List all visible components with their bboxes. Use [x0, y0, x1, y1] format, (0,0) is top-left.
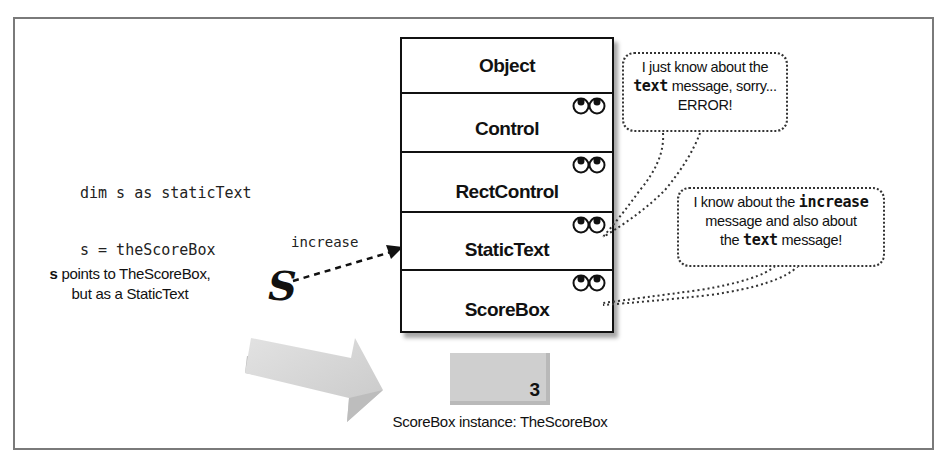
class-scorebox: ScoreBox	[402, 271, 612, 331]
code-line-dim: dim s as staticText	[80, 184, 252, 203]
class-name: Control	[402, 118, 612, 140]
pointer-caption: s points to TheScoreBox, but as a Static…	[40, 264, 220, 304]
bubble-bottom-line3: message!	[778, 232, 842, 248]
bubble-bottom-line3-pre: the	[720, 232, 743, 248]
bubble-bottom-code2: text	[743, 231, 778, 249]
instance-value: 3	[529, 379, 540, 401]
class-name: Object	[402, 55, 612, 77]
bubble-top-line3: ERROR!	[624, 96, 786, 115]
speech-bubble-control: I just know about the text message, sorr…	[622, 52, 788, 132]
bubble-top-line2: message, sorry...	[668, 78, 777, 94]
class-name: RectControl	[402, 181, 612, 203]
class-name: ScoreBox	[402, 299, 612, 321]
class-object: Object	[402, 39, 612, 94]
speech-bubble-statictext: I know about the increase message and al…	[677, 187, 885, 267]
code-snippet: dim s as staticText s = theScoreBox	[80, 146, 252, 279]
bubble-bottom-code1: increase	[799, 193, 869, 211]
code-line-assign: s = theScoreBox	[80, 241, 252, 260]
bubble-top-code: text	[633, 77, 668, 95]
class-name: StaticText	[402, 239, 612, 261]
class-control: Control	[402, 94, 612, 153]
pointer-caption-var: s	[50, 265, 58, 282]
pointer-s-symbol: S	[268, 262, 297, 309]
big-arrow-icon	[235, 330, 395, 430]
pointer-caption-line1: points to TheScoreBox,	[58, 265, 211, 282]
class-rectcontrol: RectControl	[402, 153, 612, 213]
bubble-bottom-line1: I know about the	[693, 194, 798, 210]
pointer-caption-line2: but as a StaticText	[40, 284, 220, 304]
instance-caption: ScoreBox instance: TheScoreBox	[380, 412, 620, 432]
class-statictext: StaticText	[402, 213, 612, 271]
scorebox-instance: 3	[450, 353, 550, 405]
bubble-bottom-line2: message and also about	[679, 212, 883, 231]
bubble-top-line1: I just know about the	[624, 58, 786, 77]
class-hierarchy-stack: Object Control RectControl StaticText	[400, 37, 614, 333]
